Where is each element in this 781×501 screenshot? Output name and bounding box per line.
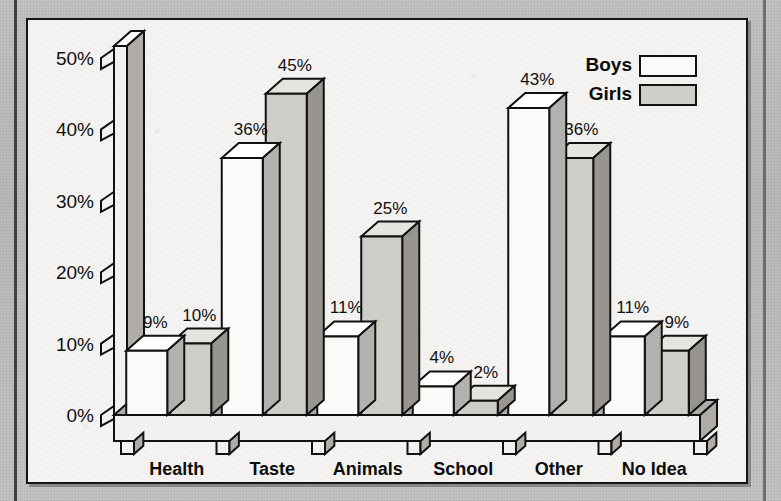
legend-item-girls[interactable]: Girls (589, 83, 696, 105)
y-axis-tick-2 (101, 263, 114, 283)
legend-item-boys[interactable]: Boys (586, 54, 696, 76)
category-label-no-idea: No Idea (622, 459, 688, 479)
y-axis-tick-5 (101, 49, 114, 69)
bar-side-face (645, 321, 662, 415)
y-tick-label-30: 30% (56, 191, 94, 212)
bar-side-face (263, 143, 280, 415)
legend-swatch-girls (640, 85, 696, 105)
x-axis-separator-6 (694, 441, 707, 454)
y-axis-tick-3 (101, 192, 114, 212)
y-tick-label-40: 40% (56, 119, 94, 140)
legend: BoysGirls (586, 54, 696, 105)
category-label-other: Other (535, 459, 583, 479)
legend-label-girls: Girls (589, 83, 632, 104)
bar-front-face (126, 351, 167, 415)
value-label-school-boys: 4% (429, 348, 454, 367)
bar-side-face (402, 222, 419, 416)
y-axis-front-face (114, 46, 127, 415)
x-axis-separator-1 (217, 441, 230, 454)
value-label-taste-girls: 45% (278, 56, 312, 75)
bar-chart-figure: 0%10%20%30%40%50% HealthTasteAnimalsKill… (28, 20, 746, 482)
bar-no-idea-boys (604, 321, 662, 415)
value-label-taste-boys: 36% (234, 120, 268, 139)
bar-side-face (211, 329, 228, 415)
y-axis-tick-4 (101, 120, 114, 140)
page-right-rule (763, 0, 766, 501)
bar-taste-boys (222, 143, 280, 415)
bar-side-face (358, 321, 375, 415)
bar-side-face (167, 336, 184, 415)
value-label-health-boys: 9% (143, 313, 168, 332)
value-label-health-girls: 10% (182, 306, 216, 325)
x-axis-separator-0 (121, 441, 134, 454)
value-label-other-girls: 36% (564, 120, 598, 139)
x-axis-separator-side-6 (707, 433, 716, 454)
x-axis-separator-2 (312, 441, 325, 454)
legend-label-boys: Boys (586, 54, 632, 75)
bar-side-face (549, 93, 566, 415)
x-axis-separator-4 (503, 441, 516, 454)
value-label-no-idea-girls: 9% (664, 313, 689, 332)
category-label-animals-killed-line1: Animals (333, 459, 403, 479)
value-label-school-girls: 2% (473, 363, 498, 382)
y-tick-label-50: 50% (56, 48, 94, 69)
bar-school-boys (413, 371, 471, 415)
bar-other-boys (508, 93, 566, 415)
x-axis-separator-3 (408, 441, 421, 454)
y-tick-label-10: 10% (56, 334, 94, 355)
x-axis-category-labels: HealthTasteAnimalsKilledSchoolOtherNo Id… (149, 459, 688, 482)
x-axis-front-face (114, 415, 700, 441)
y-tick-label-0: 0% (67, 405, 95, 426)
bar-animals-killed-boys (317, 321, 375, 415)
value-label-animals-killed-boys: 11% (330, 298, 363, 317)
bar-side-face (689, 336, 706, 415)
y-axis-tick-1 (101, 335, 114, 355)
y-axis-tick-labels: 0%10%20%30%40%50% (56, 48, 94, 426)
bar-health-boys (126, 336, 184, 415)
x-axis-separator-5 (599, 441, 612, 454)
category-label-taste: Taste (249, 459, 295, 479)
y-tick-label-20: 20% (56, 262, 94, 283)
page-left-rule (14, 0, 17, 501)
value-label-other-boys: 43% (520, 70, 554, 89)
bar-side-face (307, 79, 324, 415)
value-label-animals-killed-girls: 25% (373, 199, 407, 218)
category-label-health: Health (149, 459, 204, 479)
legend-swatch-boys (640, 56, 696, 76)
category-label-school: School (433, 459, 493, 479)
bar-side-face (593, 143, 610, 415)
value-label-no-idea-boys: 11% (616, 298, 649, 317)
bar-front-face (508, 108, 549, 415)
chart-panel: 0%10%20%30%40%50% HealthTasteAnimalsKill… (26, 18, 748, 484)
bars-group (126, 79, 706, 415)
